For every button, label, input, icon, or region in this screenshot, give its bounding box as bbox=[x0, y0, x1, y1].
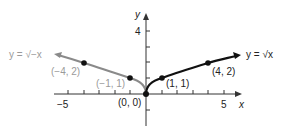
tick-label-m5: −5 bbox=[57, 99, 69, 110]
point-label-m4: (−4, 2) bbox=[51, 66, 80, 77]
tick-label-5: 5 bbox=[221, 99, 227, 110]
y-axis-label: y bbox=[134, 9, 141, 20]
point-m4-2 bbox=[81, 60, 87, 66]
x-axis-label: x bbox=[238, 99, 245, 110]
sqrt-reflection-graph: y = √−x y = √x (−4, 2) (−1, 1) (0, 0) (1… bbox=[0, 0, 285, 131]
point-m1-1 bbox=[127, 75, 133, 81]
point-label-origin: (0, 0) bbox=[118, 97, 141, 108]
point-4-2 bbox=[205, 60, 211, 66]
point-origin bbox=[143, 91, 149, 97]
point-1-1 bbox=[159, 75, 165, 81]
point-label-4: (4, 2) bbox=[212, 66, 235, 77]
tick-label-y4: 4 bbox=[135, 26, 141, 37]
left-curve-label: y = √−x bbox=[9, 49, 42, 60]
point-label-m1: (−1, 1) bbox=[96, 78, 125, 89]
y-axis bbox=[143, 13, 150, 126]
right-curve-label: y = √x bbox=[246, 49, 273, 60]
point-label-1: (1, 1) bbox=[166, 78, 189, 89]
